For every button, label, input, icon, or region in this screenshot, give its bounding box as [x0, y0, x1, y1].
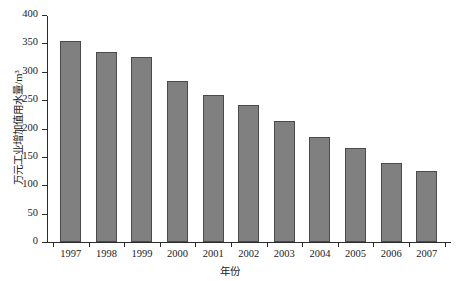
x-axis-tick — [445, 243, 446, 247]
y-axis-tick-label: 400 — [22, 8, 38, 19]
x-axis-tick — [338, 243, 339, 247]
bar — [309, 137, 330, 242]
y-axis-tick-label: 100 — [22, 178, 38, 189]
x-axis-label: 1998 — [86, 248, 126, 259]
x-axis-label: 2005 — [336, 248, 376, 259]
y-axis-tick: 350 — [42, 43, 47, 44]
x-axis-label: 1997 — [51, 248, 91, 259]
x-axis-label: 1999 — [122, 248, 162, 259]
y-axis-tick: 100 — [42, 185, 47, 186]
x-axis-tick — [302, 243, 303, 247]
x-axis-label: 2007 — [407, 248, 447, 259]
y-axis-line — [47, 16, 48, 243]
bar — [416, 171, 437, 242]
y-axis-tick-label: 350 — [22, 36, 38, 47]
y-axis-tick-label: 200 — [22, 122, 38, 133]
x-axis-label: 2004 — [300, 248, 340, 259]
plot-area: 050100150200250300350400 — [47, 16, 451, 243]
bar-chart-figure: 万元工业增加值用水量/m³ 050100150200250300350400 1… — [0, 0, 459, 281]
x-axis-tick — [409, 243, 410, 247]
x-axis-label: 2001 — [193, 248, 233, 259]
x-axis-tick — [231, 243, 232, 247]
x-axis-label: 2002 — [229, 248, 269, 259]
bar — [274, 121, 295, 242]
y-axis-tick: 0 — [42, 242, 47, 243]
x-axis-label: 2000 — [158, 248, 198, 259]
y-axis-tick-label: 300 — [22, 65, 38, 76]
y-axis-tick: 400 — [42, 15, 47, 16]
x-axis-line — [47, 242, 451, 243]
y-axis-tick: 300 — [42, 72, 47, 73]
bar — [131, 57, 152, 242]
bar — [203, 95, 224, 242]
x-axis-tick — [89, 243, 90, 247]
y-axis-tick-label: 50 — [28, 207, 39, 218]
y-axis-tick-label: 0 — [33, 235, 38, 246]
x-axis-tick — [160, 243, 161, 247]
x-axis-label: 2003 — [264, 248, 304, 259]
bar — [167, 81, 188, 242]
x-axis-tick — [124, 243, 125, 247]
y-axis-tick: 50 — [42, 214, 47, 215]
bar — [381, 163, 402, 242]
bar — [238, 105, 259, 242]
x-axis-tick — [53, 243, 54, 247]
x-axis-tick — [195, 243, 196, 247]
y-axis-tick-label: 250 — [22, 93, 38, 104]
x-axis-title: 年份 — [0, 263, 459, 278]
x-axis-tick — [267, 243, 268, 247]
y-axis-tick-label: 150 — [22, 150, 38, 161]
x-axis-label: 2006 — [371, 248, 411, 259]
y-axis-tick: 200 — [42, 129, 47, 130]
y-axis-tick: 250 — [42, 100, 47, 101]
y-axis-tick: 150 — [42, 157, 47, 158]
bar — [60, 41, 81, 242]
x-axis-tick — [373, 243, 374, 247]
bar — [345, 148, 366, 242]
bar — [96, 52, 117, 242]
